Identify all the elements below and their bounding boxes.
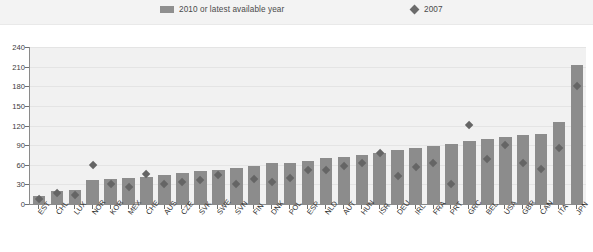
bar — [445, 144, 458, 204]
y-axis-tick-label: 150 — [3, 101, 25, 110]
bar-group — [407, 47, 425, 204]
y-axis-tick — [25, 145, 29, 146]
y-axis-tick — [25, 67, 29, 68]
bar-group — [120, 47, 138, 204]
y-axis-labels: 0306090120150180210240 — [0, 0, 25, 252]
y-axis-tick-label: 210 — [3, 62, 25, 71]
y-axis-tick — [25, 47, 29, 48]
bar-group — [335, 47, 353, 204]
bar — [409, 148, 422, 204]
y-axis-tick — [25, 106, 29, 107]
bar — [427, 146, 440, 204]
y-axis-tick-label: 90 — [3, 141, 25, 150]
bar-group — [532, 47, 550, 204]
legend-label-marker: 2007 — [424, 5, 443, 14]
y-axis-tick-label: 0 — [3, 200, 25, 209]
y-axis-tick — [25, 165, 29, 166]
bar — [158, 175, 171, 204]
bar-group — [478, 47, 496, 204]
bar-group — [353, 47, 371, 204]
bar-group — [496, 47, 514, 204]
bar-group — [425, 47, 443, 204]
y-axis-tick — [25, 126, 29, 127]
bar-group — [30, 47, 48, 204]
y-axis-tick-label: 180 — [3, 82, 25, 91]
bar — [284, 163, 297, 204]
bar-swatch-icon — [160, 6, 174, 13]
bar — [373, 153, 386, 204]
bar-group — [514, 47, 532, 204]
bar-group — [84, 47, 102, 204]
bar-group — [568, 47, 586, 204]
legend-label-bar: 2010 or latest available year — [179, 5, 284, 14]
y-axis-tick-label: 60 — [3, 160, 25, 169]
bar-group — [299, 47, 317, 204]
chart-figure: 2010 or latest available year 2007 03060… — [0, 0, 593, 252]
diamond-swatch-icon — [410, 4, 420, 14]
y-axis-tick — [25, 204, 29, 205]
bar — [463, 141, 476, 204]
y-axis-tick-label: 30 — [3, 180, 25, 189]
y-axis-tick — [25, 184, 29, 185]
legend-item-bar: 2010 or latest available year — [160, 2, 284, 16]
y-axis-tick-label: 240 — [3, 43, 25, 52]
bar-group — [371, 47, 389, 204]
bar-group — [317, 47, 335, 204]
legend-item-marker: 2007 — [409, 2, 443, 16]
bar — [517, 135, 530, 204]
bar — [553, 122, 566, 204]
bar-group — [66, 47, 84, 204]
y-axis-tick-label: 120 — [3, 121, 25, 130]
bar-group — [138, 47, 156, 204]
bar — [481, 139, 494, 204]
plot-area — [29, 47, 586, 204]
bar-group — [209, 47, 227, 204]
chart-legend: 2010 or latest available year 2007 — [0, 0, 593, 25]
bar-group — [48, 47, 66, 204]
y-axis-tick — [25, 86, 29, 87]
bar — [248, 166, 261, 204]
bar-group — [550, 47, 568, 204]
